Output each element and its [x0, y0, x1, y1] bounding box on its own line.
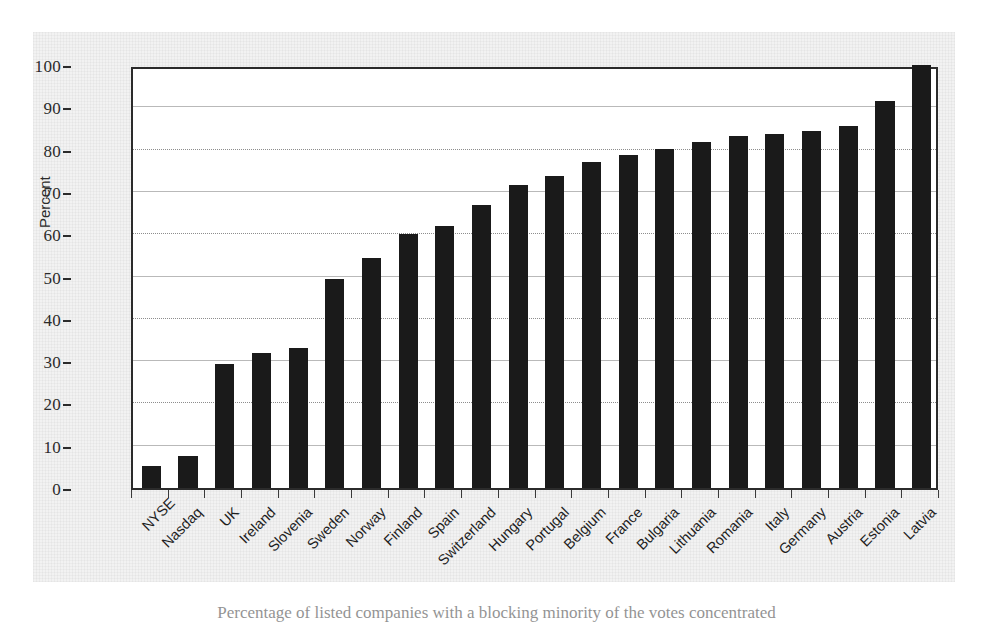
x-tick-mark	[791, 490, 792, 498]
figure-caption: Percentage of listed companies with a bl…	[0, 598, 993, 623]
bar	[802, 131, 821, 488]
y-tick-mark	[63, 278, 71, 280]
bar	[289, 348, 308, 488]
x-tick-mark	[278, 490, 279, 498]
y-tick-mark	[63, 489, 71, 491]
x-tick-mark	[718, 490, 719, 498]
y-tick-label: 30	[43, 353, 61, 373]
chart-bars	[133, 69, 936, 488]
y-tick-mark	[63, 320, 71, 322]
y-tick-mark	[63, 193, 71, 195]
x-tick-mark	[131, 490, 132, 498]
x-tick-mark	[314, 490, 315, 498]
x-tick-mark	[351, 490, 352, 498]
x-tick-mark	[645, 490, 646, 498]
y-tick-label: 0	[52, 480, 61, 500]
y-tick-label: 50	[43, 269, 61, 289]
x-tick-mark	[461, 490, 462, 498]
y-tick-mark	[63, 66, 71, 68]
y-tick-mark	[63, 151, 71, 153]
y-tick-label: 80	[43, 142, 61, 162]
x-tick-mark	[681, 490, 682, 498]
y-tick-label: 20	[43, 395, 61, 415]
bar	[912, 65, 931, 488]
x-tick-mark	[571, 490, 572, 498]
y-axis-title: Percent	[36, 176, 53, 228]
y-tick-label: 60	[43, 226, 61, 246]
x-tick-mark	[828, 490, 829, 498]
y-tick-label: 40	[43, 311, 61, 331]
y-tick-label: 90	[43, 99, 61, 119]
bar	[729, 136, 748, 488]
bar	[839, 126, 858, 488]
x-tick-label: NYSE	[139, 504, 169, 534]
bar	[509, 185, 528, 488]
y-axis: 0102030405060708090100	[33, 32, 133, 552]
y-tick-label: 100	[35, 57, 61, 77]
x-tick-mark	[608, 490, 609, 498]
y-tick-mark	[63, 108, 71, 110]
bar	[655, 149, 674, 488]
x-tick-mark	[938, 490, 939, 498]
chart-plot-area	[131, 67, 938, 490]
bar	[362, 258, 381, 488]
y-tick-mark	[63, 235, 71, 237]
bar	[435, 226, 454, 488]
x-tick-mark	[865, 490, 866, 498]
x-tick-mark	[498, 490, 499, 498]
bar	[692, 142, 711, 488]
x-tick-mark	[204, 490, 205, 498]
y-tick-mark	[63, 404, 71, 406]
bar	[399, 234, 418, 488]
y-tick-mark	[63, 447, 71, 449]
x-tick-mark	[901, 490, 902, 498]
x-tick-mark	[755, 490, 756, 498]
bar	[178, 456, 197, 488]
x-tick-mark	[241, 490, 242, 498]
y-tick-mark	[63, 362, 71, 364]
bar	[545, 176, 564, 488]
x-tick-mark	[424, 490, 425, 498]
bar	[142, 466, 161, 488]
y-tick-label: 10	[43, 438, 61, 458]
x-tick-mark	[535, 490, 536, 498]
bar	[765, 134, 784, 488]
bar	[582, 162, 601, 488]
x-tick-mark	[388, 490, 389, 498]
bar	[215, 364, 234, 488]
x-axis-labels: NYSENasdaqUKIrelandSloveniaSwedenNorwayF…	[131, 500, 938, 590]
bar	[325, 279, 344, 488]
bar	[472, 205, 491, 488]
bar	[252, 353, 271, 488]
bar	[875, 101, 894, 488]
bar	[619, 155, 638, 488]
